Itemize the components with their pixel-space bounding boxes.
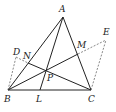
label-m: M xyxy=(76,40,87,50)
label-a: A xyxy=(58,4,66,14)
label-n: N xyxy=(22,51,32,61)
segment-ce xyxy=(91,40,106,90)
segment-bm xyxy=(8,54,78,90)
segment-ac xyxy=(63,17,91,90)
label-l: L xyxy=(35,94,42,104)
geometry-diagram: A B C L P M E N D xyxy=(0,0,116,112)
label-c: C xyxy=(88,94,95,104)
label-p: P xyxy=(46,73,54,83)
label-d: D xyxy=(12,47,20,57)
segment-cn xyxy=(28,63,91,90)
label-e: E xyxy=(102,27,110,37)
label-b: B xyxy=(3,94,11,104)
